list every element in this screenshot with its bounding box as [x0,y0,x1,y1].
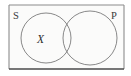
mark-x-s-only: X [36,33,45,45]
label-s: S [13,10,19,21]
venn-diagram-container: S P X [0,0,131,76]
venn-diagram-svg: S P X [0,0,131,76]
label-p: P [111,10,117,21]
